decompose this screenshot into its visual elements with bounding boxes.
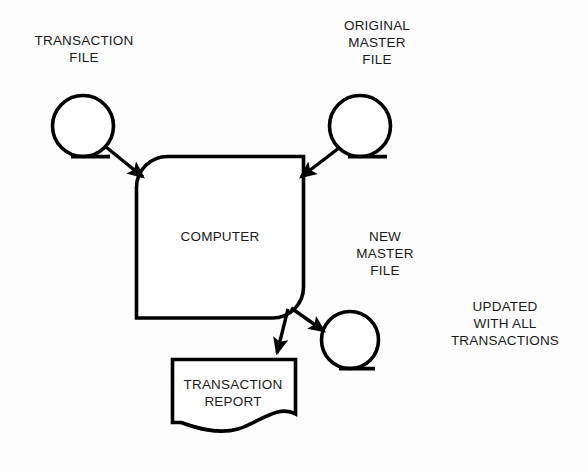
label-updated-note-line2: WITH ALL — [425, 315, 585, 332]
label-transaction-report-line2: REPORT — [168, 393, 298, 410]
label-original-master-line3: FILE — [313, 51, 441, 68]
label-new-master-file: NEW MASTER FILE — [330, 228, 440, 279]
label-new-master-line2: MASTER — [330, 245, 440, 262]
label-transaction-report: TRANSACTION REPORT — [168, 376, 298, 410]
label-original-master-line1: ORIGINAL — [313, 17, 441, 34]
connector-computer-to-new-master — [291, 308, 324, 331]
connector-original-master-to-computer — [301, 148, 339, 177]
label-updated-note-line1: UPDATED — [425, 298, 585, 315]
label-original-master-line2: MASTER — [313, 34, 441, 51]
label-updated-note-line3: TRANSACTIONS — [425, 332, 585, 349]
node-original-master-file[interactable] — [330, 96, 391, 157]
label-new-master-line1: NEW — [330, 228, 440, 245]
label-transaction-file-line1: TRANSACTION — [14, 32, 154, 49]
node-new-master-file[interactable] — [322, 312, 379, 369]
label-new-master-line3: FILE — [330, 262, 440, 279]
label-computer: COMPUTER — [150, 228, 290, 245]
original-master-tape-circle — [330, 96, 391, 157]
transaction-file-tape-circle — [53, 96, 114, 157]
label-transaction-file: TRANSACTION FILE — [14, 32, 154, 66]
label-transaction-report-line1: TRANSACTION — [168, 376, 298, 393]
label-original-master-file: ORIGINAL MASTER FILE — [313, 17, 441, 68]
connector-transaction-file-to-computer — [106, 147, 143, 177]
label-updated-note: UPDATED WITH ALL TRANSACTIONS — [425, 298, 585, 349]
node-transaction-file[interactable] — [53, 96, 114, 157]
flowchart-canvas: TRANSACTION FILE ORIGINAL MASTER FILE CO… — [0, 0, 588, 473]
label-transaction-file-line2: FILE — [14, 49, 154, 66]
new-master-tape-circle — [322, 312, 379, 369]
